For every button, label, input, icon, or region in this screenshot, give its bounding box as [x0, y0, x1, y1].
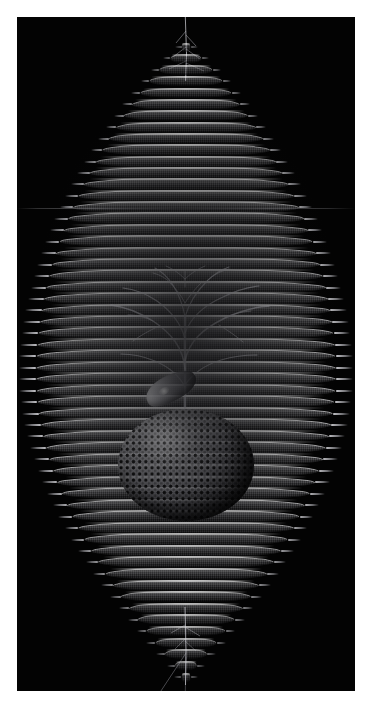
specimen-body — [33, 17, 339, 691]
shell-spine — [294, 195, 307, 197]
shell-spine — [217, 642, 226, 644]
shell-spine — [336, 367, 353, 369]
shell-tier — [182, 673, 191, 682]
shell-spine — [263, 138, 274, 140]
shell-spine — [276, 161, 288, 163]
image-field — [17, 17, 355, 691]
shell-spine — [207, 653, 216, 655]
shell-spine — [197, 665, 205, 667]
shell-spine — [288, 539, 301, 541]
shell-spine — [34, 275, 49, 277]
film-scratch-artifact — [17, 208, 355, 209]
shell-spine — [226, 630, 236, 632]
shell-tier — [182, 43, 191, 52]
shell-spine — [335, 344, 352, 346]
shell-spine — [114, 115, 124, 117]
shell-spine — [71, 539, 84, 541]
shell-spine — [20, 344, 37, 346]
shell-spine — [141, 80, 150, 82]
shell-spine — [21, 401, 38, 403]
shell-spine — [304, 218, 318, 220]
shell-spine — [151, 69, 159, 71]
shell-spine — [37, 264, 52, 266]
shell-spine — [91, 149, 103, 151]
shell-spine — [42, 481, 57, 483]
shell-spine — [315, 481, 330, 483]
shell-spine — [335, 401, 352, 403]
shell-spine — [191, 46, 198, 48]
shell-spine — [336, 390, 353, 392]
shell-tier — [146, 626, 225, 636]
shell-tier — [84, 533, 287, 545]
shell-spine — [65, 195, 78, 197]
shell-spine — [305, 504, 319, 506]
central-perforated-sphere — [118, 409, 254, 521]
shell-spine — [65, 527, 79, 529]
shell-spine — [319, 470, 334, 472]
sphere-shading — [118, 409, 254, 521]
shell-spine — [323, 458, 339, 460]
shell-spine — [41, 252, 56, 254]
shell-spine — [54, 218, 68, 220]
shell-tier — [170, 54, 201, 64]
shell-tier — [105, 568, 267, 580]
shell-spine — [110, 596, 121, 598]
shell-spine — [294, 527, 308, 529]
shell-spine — [25, 309, 41, 311]
shell-spine — [282, 172, 294, 174]
shell-spine — [232, 92, 241, 94]
shell-spine — [19, 390, 36, 392]
shell-spine — [93, 573, 105, 575]
shell-spine — [19, 355, 36, 357]
shell-spine — [310, 493, 325, 495]
shell-spine — [167, 665, 175, 667]
shell-spine — [334, 332, 351, 334]
shell-spine — [101, 584, 112, 586]
shell-spine — [119, 607, 129, 609]
shell-spine — [34, 458, 50, 460]
shell-spine — [326, 287, 342, 289]
shell-spine — [23, 321, 39, 323]
shell-spine — [202, 57, 210, 59]
shell-tier — [159, 65, 212, 75]
shell-spine — [47, 493, 62, 495]
shell-spine — [329, 435, 345, 437]
photo-plate — [0, 0, 371, 709]
shell-spine — [336, 355, 353, 357]
shell-tier — [91, 545, 281, 557]
shell-tier — [140, 88, 231, 99]
shell-spine — [156, 653, 165, 655]
shell-tier — [124, 110, 248, 121]
shell-spine — [256, 126, 267, 128]
shell-spine — [333, 413, 350, 415]
shell-spine — [243, 607, 253, 609]
shell-spine — [50, 229, 64, 231]
shell-spine — [274, 561, 286, 563]
shell-tier — [149, 76, 222, 86]
shell-spine — [106, 126, 117, 128]
shell-tier — [155, 638, 216, 648]
shell-spine — [330, 309, 346, 311]
shell-spine — [27, 435, 43, 437]
shell-tier — [138, 614, 235, 625]
shell-spine — [267, 573, 279, 575]
shell-tier — [129, 603, 243, 614]
shell-tier — [121, 591, 251, 602]
shell-spine — [137, 630, 147, 632]
shell-spine — [259, 584, 270, 586]
shell-tier — [96, 156, 277, 168]
shell-spine — [78, 550, 91, 552]
shell-spine — [300, 516, 314, 518]
shell-spine — [31, 287, 47, 289]
shell-spine — [24, 424, 40, 426]
shell-spine — [308, 229, 322, 231]
shell-spine — [146, 642, 155, 644]
shell-spine — [248, 115, 258, 117]
shell-spine — [331, 424, 347, 426]
shell-spine — [58, 516, 72, 518]
shell-spine — [288, 183, 301, 185]
shell-spine — [30, 447, 46, 449]
shell-tier — [175, 661, 197, 670]
shell-spine — [336, 378, 353, 380]
shell-spine — [326, 447, 342, 449]
